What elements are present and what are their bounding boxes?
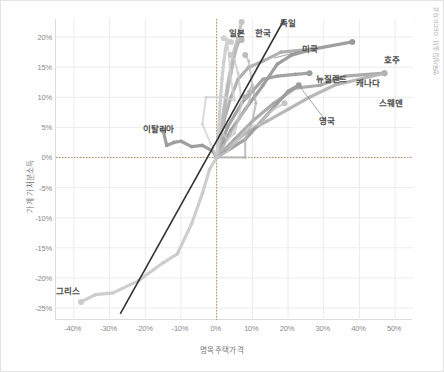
y-tick-label: -10% <box>35 213 52 222</box>
series-point <box>247 90 250 93</box>
series-point <box>190 222 194 226</box>
series-point <box>172 141 176 145</box>
series-point <box>205 96 208 99</box>
series-endpoint-marker <box>228 39 234 45</box>
series-point <box>93 293 97 297</box>
series-point <box>215 156 218 159</box>
series-endpoint-marker <box>281 100 287 106</box>
series-point <box>233 132 236 135</box>
series-point <box>247 60 250 63</box>
series-point <box>251 120 254 123</box>
series-line-이탈리아 <box>163 130 217 157</box>
series-label-미국: 미국 <box>302 45 318 54</box>
series-point <box>222 96 225 99</box>
series-point <box>286 108 290 112</box>
y-tick-label: 5% <box>42 123 52 132</box>
series-point <box>218 101 222 105</box>
series-point <box>237 138 240 141</box>
x-axis-tick-labels: -40%-30%-20%-10%0%10%20%30%40%50% <box>55 324 412 336</box>
series-point <box>293 73 297 77</box>
series-endpoint-marker <box>349 39 355 45</box>
x-tick-label: 50% <box>387 324 401 333</box>
series-point <box>251 84 254 87</box>
chart-container: 가계 가처분소득 명목주택가격 명목/실질 출처 : OECD 자료 20%15… <box>0 0 444 372</box>
series-point <box>240 102 243 105</box>
series-point <box>208 168 212 172</box>
series-point <box>179 139 183 143</box>
x-axis-title: 명목주택가격 <box>1 344 443 355</box>
series-point <box>240 114 243 117</box>
series-point <box>222 59 226 63</box>
series-label-뉴질랜드: 뉴질랜드 <box>316 75 347 84</box>
series-endpoint-marker <box>239 19 245 25</box>
series-point <box>272 108 275 111</box>
series-line-그리스 <box>81 157 217 301</box>
series-point <box>226 126 230 130</box>
series-point <box>190 145 194 149</box>
x-tick-label: -20% <box>136 324 153 333</box>
series-point <box>226 150 229 153</box>
y-tick-label: -20% <box>35 273 52 282</box>
series-point <box>276 101 280 105</box>
series-point <box>286 89 290 93</box>
series-point <box>111 291 115 295</box>
series-point <box>226 89 230 93</box>
series-point <box>222 144 225 147</box>
series-endpoint-marker <box>221 35 227 41</box>
series-point <box>222 114 226 118</box>
source-note: 명목/실질 출처 : OECD 자료 <box>431 7 439 74</box>
x-tick-label: 30% <box>316 324 330 333</box>
series-point <box>220 77 224 81</box>
y-tick-label: 20% <box>38 33 52 42</box>
series-point <box>261 83 265 87</box>
x-tick-label: 20% <box>280 324 294 333</box>
plot-area <box>55 19 412 320</box>
x-tick-label: 10% <box>244 324 258 333</box>
series-point <box>279 50 283 54</box>
y-tick-label: -25% <box>35 303 52 312</box>
series-point <box>201 144 205 148</box>
series-label-스웨덴: 스웨덴 <box>379 99 402 108</box>
series-endpoint-marker <box>242 52 248 58</box>
series-point <box>244 138 247 141</box>
plot-svg <box>56 19 413 320</box>
series-point <box>165 144 169 148</box>
series-point <box>276 74 280 78</box>
y-tick-label: 15% <box>38 63 52 72</box>
x-tick-label: -30% <box>100 324 117 333</box>
x-tick-label: -10% <box>172 324 189 333</box>
series-point <box>265 120 269 124</box>
series-point <box>258 123 261 126</box>
series-endpoint-marker <box>306 70 312 76</box>
y-tick-label: -5% <box>39 183 52 192</box>
series-endpoint-marker <box>228 52 234 58</box>
y-tick-label: -15% <box>35 243 52 252</box>
series-point <box>176 252 180 256</box>
series-point <box>201 123 204 126</box>
series-label-일본: 일본 <box>229 29 245 38</box>
series-point <box>230 132 233 135</box>
series-point <box>237 72 240 75</box>
series-endpoint-marker <box>78 299 84 305</box>
series-point <box>224 47 228 51</box>
series-endpoint-marker <box>242 94 248 100</box>
series-point <box>265 114 268 117</box>
series-label-이탈리아: 이탈리아 <box>143 125 174 134</box>
series-label-그리스: 그리스 <box>56 287 79 296</box>
series-label-영국: 영국 <box>319 117 335 126</box>
series-point <box>247 126 250 129</box>
series-endpoint-marker <box>381 70 387 76</box>
series-point <box>261 77 265 81</box>
series-point <box>233 99 236 102</box>
series-label-호주: 호주 <box>384 56 400 65</box>
y-tick-label: 0% <box>42 153 52 162</box>
y-axis-tick-labels: 20%15%10%5%0%-5%-10%-15%-20%-25% <box>23 19 52 320</box>
series-point <box>244 156 247 159</box>
series-point <box>255 102 258 105</box>
series-point <box>161 261 165 265</box>
x-tick-label: -40% <box>64 324 81 333</box>
series-label-한국: 한국 <box>255 29 271 38</box>
series-point <box>201 192 205 196</box>
series-point <box>276 62 280 66</box>
series-label-독일: 독일 <box>280 19 296 28</box>
